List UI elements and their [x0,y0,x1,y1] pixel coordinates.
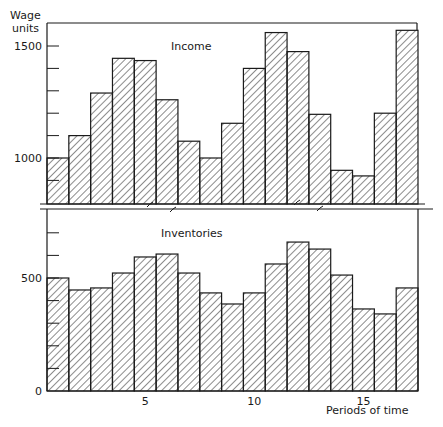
inventories-bar [134,257,156,391]
inventories-bar [374,314,396,391]
y-tick-label: 500 [21,272,42,285]
income-bar [47,158,69,204]
inventories-bar [47,278,69,391]
y-axis-label-wage: Wage [10,9,41,22]
inventories-bar [91,288,113,391]
income-bar [396,30,418,204]
y-tick-label: 1000 [14,152,42,165]
income-bar [331,170,353,204]
income-bar [200,158,222,204]
inventories-bar [243,293,265,391]
inventories-bar [309,249,331,391]
income-bar [265,33,287,204]
y-tick-label: 1500 [14,40,42,53]
income-bar [353,176,375,204]
income-bar [309,114,331,204]
income-bars [47,30,418,204]
chart-figure: 10001500 Wage units Income 0500 51015 In… [0,0,443,427]
inventories-bar [353,309,375,391]
x-tick-label: 10 [247,395,261,408]
income-panel: 10001500 Wage units Income [10,9,425,204]
chart-canvas: 10001500 Wage units Income 0500 51015 In… [0,0,443,427]
y-tick-label: 0 [35,385,42,398]
income-bar [91,93,113,204]
inventories-bar [200,293,222,391]
income-bar [112,58,134,204]
income-bar [374,113,396,204]
inventories-bar [156,254,178,391]
inventories-bar [178,273,200,391]
income-bar [222,123,244,204]
income-bar [69,136,91,204]
y-axis-label-units: units [12,22,39,35]
income-title: Income [171,40,212,53]
inventories-title: Inventories [161,227,223,240]
x-tick-label: 5 [142,395,149,408]
inventories-bars [47,242,418,391]
income-bar [134,61,156,204]
income-bar [287,52,309,204]
income-bar [156,100,178,204]
inventories-panel: 0500 51015 Inventories Periods of time [21,209,433,417]
inventories-bar [287,242,309,391]
inventories-bar [331,275,353,391]
inventories-bar [112,273,134,391]
income-bar [178,141,200,204]
income-bar [243,68,265,204]
x-axis-label: Periods of time [326,404,409,417]
inventories-bar [396,288,418,391]
inventories-bar [265,264,287,391]
inventories-bar [69,290,91,391]
inventories-bar [222,304,244,391]
